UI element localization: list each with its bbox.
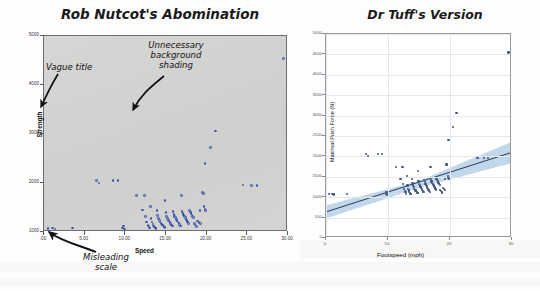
scatter-point	[187, 222, 190, 225]
y-tick-mark	[322, 94, 325, 95]
scatter-point	[112, 179, 115, 182]
arrow-misleading-scale	[49, 232, 96, 252]
y-tick-mark	[322, 33, 325, 34]
y-tick-mark	[322, 115, 325, 116]
y-tick-mark	[40, 35, 44, 36]
y-tick-label: 500	[305, 214, 322, 219]
horizontal-gridline	[326, 54, 511, 55]
y-tick-label: 0	[305, 234, 322, 239]
annotation-background-shading: Unnecessary background shading	[135, 40, 217, 70]
scatter-point	[165, 211, 168, 214]
scatter-point	[156, 209, 159, 212]
annotation-vague-title: Vague title	[46, 62, 116, 72]
y-tick-label: 3000	[305, 112, 322, 117]
horizontal-gridline	[326, 34, 511, 35]
x-tick-label: 15.00	[156, 236, 174, 241]
y-tick-mark	[40, 182, 44, 183]
x-tick-mark	[43, 231, 44, 235]
x-tick-label: 10	[379, 241, 395, 246]
left-chart-title: Rob Nutcot's Abomination	[40, 6, 280, 22]
x-tick-label: 20.00	[197, 236, 215, 241]
scatter-point	[406, 175, 408, 177]
x-tick-mark	[246, 231, 247, 235]
scatter-point	[452, 126, 454, 128]
y-tick-label: 5000	[21, 32, 39, 37]
x-tick-label: 30	[503, 241, 519, 246]
y-tick-mark	[40, 84, 44, 85]
annotation-misleading-scale: Misleading scale	[70, 252, 142, 272]
right-y-axis-title: Maximal Push Force (N)	[329, 77, 335, 187]
scatter-point	[71, 227, 74, 230]
scatter-point	[192, 216, 195, 219]
x-tick-label: 10.00	[115, 236, 133, 241]
scan-artifact	[0, 278, 540, 286]
scatter-point	[399, 178, 401, 180]
scatter-point	[444, 178, 446, 180]
y-tick-mark	[322, 176, 325, 177]
y-tick-mark	[322, 53, 325, 54]
y-tick-label: 4000	[21, 81, 39, 86]
x-tick-mark	[287, 231, 288, 235]
x-tick-mark	[124, 231, 125, 235]
y-tick-label: 1500	[305, 173, 322, 178]
x-tick-label: 5.00	[75, 236, 93, 241]
right-plot-area	[325, 33, 511, 237]
x-tick-label: 0	[317, 241, 333, 246]
scatter-point	[507, 51, 509, 53]
x-tick-mark	[449, 237, 450, 240]
scatter-point	[204, 209, 207, 212]
scatter-point	[199, 209, 202, 212]
x-tick-label: 25.00	[237, 236, 255, 241]
x-tick-mark	[206, 231, 207, 235]
x-tick-mark	[325, 237, 326, 240]
x-tick-label: 30.00	[278, 236, 296, 241]
scatter-point	[417, 180, 419, 182]
x-tick-label: 20	[441, 241, 457, 246]
horizontal-gridline	[326, 218, 511, 219]
horizontal-gridline	[326, 177, 511, 178]
y-tick-label: 1000	[21, 228, 39, 233]
scatter-point	[386, 193, 388, 195]
y-tick-label: 3500	[305, 92, 322, 97]
scatter-point	[117, 179, 120, 182]
horizontal-gridline	[326, 75, 511, 76]
scatter-point	[195, 225, 198, 228]
y-tick-label: 1000	[305, 194, 322, 199]
right-chart: 0500100015002000250030003500400045005000…	[325, 33, 511, 237]
x-tick-mark	[387, 237, 388, 240]
x-tick-mark	[84, 231, 85, 235]
horizontal-gridline	[326, 197, 511, 198]
scatter-point	[455, 112, 457, 114]
x-tick-mark	[511, 237, 512, 240]
scatter-point	[47, 227, 50, 230]
y-tick-mark	[322, 74, 325, 75]
scatter-point	[406, 184, 408, 186]
horizontal-gridline	[326, 136, 511, 137]
x-tick-mark	[165, 231, 166, 235]
scatter-point	[180, 194, 183, 197]
scatter-point	[144, 215, 147, 218]
vertical-gridline	[326, 34, 327, 237]
scatter-point	[143, 194, 146, 197]
scatter-point	[422, 191, 424, 193]
y-tick-label: 2000	[305, 153, 322, 158]
scatter-point	[214, 130, 217, 133]
y-tick-mark	[322, 217, 325, 218]
slide-canvas: Rob Nutcot's Abomination 100020003000400…	[0, 0, 540, 291]
scatter-point	[135, 194, 138, 197]
horizontal-gridline	[326, 95, 511, 96]
scatter-point	[209, 146, 212, 149]
scatter-point	[476, 157, 478, 159]
vertical-gridline	[450, 34, 451, 237]
x-tick-label: .00	[34, 236, 52, 241]
scatter-point	[123, 228, 126, 231]
y-tick-mark	[322, 196, 325, 197]
scatter-point	[447, 139, 449, 141]
y-tick-label: 4000	[305, 71, 322, 76]
y-tick-mark	[322, 135, 325, 136]
left-y-axis-title: Strength	[36, 95, 43, 155]
vertical-gridline	[388, 34, 389, 237]
horizontal-gridline	[326, 116, 511, 117]
scatter-point	[149, 205, 152, 208]
scatter-point	[429, 166, 431, 168]
